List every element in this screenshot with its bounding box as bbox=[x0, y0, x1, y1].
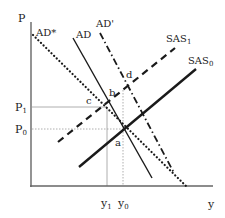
price-axis-label: P bbox=[18, 12, 26, 25]
p1-label: P1 bbox=[15, 101, 27, 115]
curve-labels: AD* AD AD' SAS1 SAS0 bbox=[35, 18, 213, 68]
p0-label: P0 bbox=[15, 123, 27, 137]
sas1-curve bbox=[58, 48, 175, 142]
point-b-label: b bbox=[109, 87, 115, 98]
y1-label: y1 bbox=[100, 197, 112, 211]
curves bbox=[33, 33, 196, 186]
ad-prime-label: AD' bbox=[95, 18, 114, 29]
y0-label: y0 bbox=[117, 197, 129, 211]
guide-lines bbox=[32, 90, 123, 186]
point-a-label: a bbox=[115, 137, 121, 148]
ad-star-label: AD* bbox=[35, 27, 56, 38]
ad-as-diagram: P y P1 P0 y1 y0 AD* AD AD' SAS1 SAS0 a b… bbox=[0, 0, 225, 218]
point-d-label: d bbox=[126, 69, 133, 80]
sas1-label: SAS1 bbox=[166, 33, 191, 46]
axes bbox=[30, 22, 213, 187]
output-axis-label: y bbox=[207, 198, 215, 211]
sas0-label: SAS0 bbox=[188, 55, 213, 68]
ad-label: AD bbox=[75, 29, 91, 40]
ad-curve bbox=[73, 38, 152, 178]
point-c-label: c bbox=[86, 95, 92, 106]
